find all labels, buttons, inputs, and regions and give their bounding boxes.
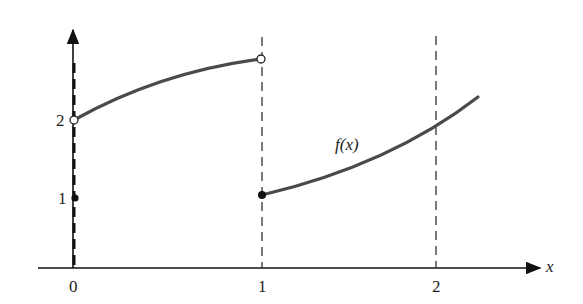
curve-label: f(x)	[335, 135, 359, 154]
open-point-0-2	[70, 116, 78, 124]
tick-x2-label: 2	[432, 277, 441, 296]
curve-piece-1	[74, 59, 261, 120]
closed-point-0-1	[71, 194, 78, 201]
tick-x0-label: 0	[69, 277, 78, 296]
curve-piece-2	[262, 97, 478, 195]
tick-x1-label: 1	[258, 277, 267, 296]
open-point-1	[257, 55, 265, 63]
x-axis-label: x	[545, 257, 554, 276]
tick-y2-label: 2	[56, 111, 65, 130]
tick-y1-label: 1	[58, 189, 67, 208]
function-graph: 2 1 0 1 2 x f(x)	[0, 0, 583, 304]
closed-point-1	[258, 191, 266, 199]
